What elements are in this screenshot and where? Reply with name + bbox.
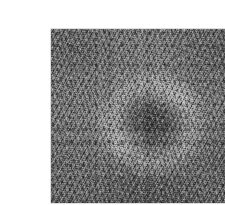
page-root — [0, 0, 225, 205]
grass-photograph — [51, 29, 225, 203]
photo-grayscale-layer — [51, 29, 225, 203]
